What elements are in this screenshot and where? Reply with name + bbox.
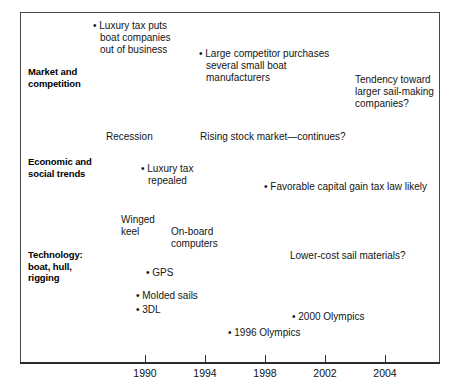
axis-tick-label-1998: 1998 bbox=[253, 367, 276, 380]
axis-tick-label-1994: 1994 bbox=[193, 367, 216, 380]
note-winged-keel: Winged keel bbox=[121, 214, 176, 238]
note-2000-olympics: 2000 Olympics bbox=[292, 311, 399, 323]
note-rising-stock-market-continues: Rising stock market—continues? bbox=[200, 131, 390, 143]
axis-tick-label-1990: 1990 bbox=[133, 367, 156, 380]
axis-tick-1998 bbox=[265, 355, 266, 362]
timeline-diagram: Market and competitionEconomic and socia… bbox=[0, 0, 456, 386]
timeline-axis-line bbox=[20, 362, 440, 364]
axis-tick-label-2004: 2004 bbox=[373, 367, 396, 380]
band-label-technology-boat-hull-rigging: Technology: boat, hull, rigging bbox=[28, 249, 83, 284]
axis-tick-1990 bbox=[145, 355, 146, 362]
note-recession: Recession bbox=[106, 131, 186, 143]
note-on-board-computers: On-board computers bbox=[171, 226, 241, 250]
axis-tick-2004 bbox=[385, 355, 386, 362]
note-favorable-capital-gain-tax-law-likely: Favorable capital gain tax law likely bbox=[264, 181, 456, 193]
note-tendency-toward-larger-sail-making-companies: Tendency toward larger sail-making compa… bbox=[355, 74, 455, 110]
note-lower-cost-sail-materials: Lower-cost sail materials? bbox=[290, 250, 435, 262]
note-luxury-tax-repealed: Luxury tax repealed bbox=[141, 163, 228, 187]
note-3dl: 3DL bbox=[136, 304, 203, 316]
axis-tick-2002 bbox=[325, 355, 326, 362]
axis-tick-1994 bbox=[205, 355, 206, 362]
note-large-competitor-purchases-several-small-boat-manufacturers: Large competitor purchases several small… bbox=[199, 48, 371, 84]
band-label-economic-and-social-trends: Economic and social trends bbox=[28, 156, 92, 179]
band-label-market-and-competition: Market and competition bbox=[28, 66, 81, 89]
note-1996-olympics: 1996 Olympics bbox=[228, 327, 335, 339]
axis-tick-label-2002: 2002 bbox=[313, 367, 336, 380]
note-gps: GPS bbox=[146, 267, 213, 279]
note-molded-sails: Molded sails bbox=[136, 290, 233, 302]
